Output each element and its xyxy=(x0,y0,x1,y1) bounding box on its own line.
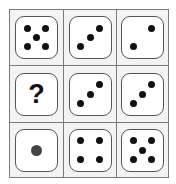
pip-dot-icon xyxy=(42,25,49,32)
die-face-3 xyxy=(69,16,112,59)
question-mark-icon: ? xyxy=(16,74,57,115)
pip-dot-icon xyxy=(139,147,146,154)
die-face-3 xyxy=(69,73,112,116)
die-face-2 xyxy=(121,16,164,59)
pip-dot-icon xyxy=(148,156,155,163)
pip-dot-icon xyxy=(77,156,84,163)
pip-dot-icon xyxy=(96,137,103,144)
grid-cell-r0-c0 xyxy=(10,10,64,66)
die-face-5 xyxy=(15,16,58,59)
pip-dot-icon xyxy=(96,156,103,163)
dice-puzzle-grid: ? xyxy=(9,9,169,178)
pip-dot-icon xyxy=(31,145,42,156)
pip-dot-icon xyxy=(77,100,84,107)
pip-dot-icon xyxy=(77,137,84,144)
pip-dot-icon xyxy=(130,137,137,144)
pip-dot-icon xyxy=(148,137,155,144)
pip-dot-icon xyxy=(87,34,94,41)
grid-cell-r0-c1 xyxy=(64,10,117,66)
grid-cell-r1-c0: ? xyxy=(10,66,64,123)
pip-dot-icon xyxy=(139,91,146,98)
pip-dot-icon xyxy=(130,156,137,163)
pip-dot-icon xyxy=(77,43,84,50)
pip-dot-icon xyxy=(148,81,155,88)
pip-dot-icon xyxy=(130,43,137,50)
pip-dot-icon xyxy=(96,25,103,32)
die-face-4 xyxy=(69,129,112,172)
die-face-3 xyxy=(121,73,164,116)
die-face-1 xyxy=(15,129,58,172)
grid-cell-r0-c2 xyxy=(117,10,168,66)
grid-cell-r1-c2 xyxy=(117,66,168,123)
pip-dot-icon xyxy=(130,100,137,107)
grid-cell-r1-c1 xyxy=(64,66,117,123)
pip-dot-icon xyxy=(148,25,155,32)
pip-dot-icon xyxy=(24,43,31,50)
pip-dot-icon xyxy=(24,25,31,32)
grid-cell-r2-c1 xyxy=(64,123,117,177)
pip-dot-icon xyxy=(96,81,103,88)
missing-die-placeholder: ? xyxy=(15,73,58,116)
pip-dot-icon xyxy=(87,91,94,98)
grid-cell-r2-c0 xyxy=(10,123,64,177)
pip-dot-icon xyxy=(42,43,49,50)
pip-dot-icon xyxy=(33,34,40,41)
die-face-5 xyxy=(121,129,164,172)
grid-cell-r2-c2 xyxy=(117,123,168,177)
